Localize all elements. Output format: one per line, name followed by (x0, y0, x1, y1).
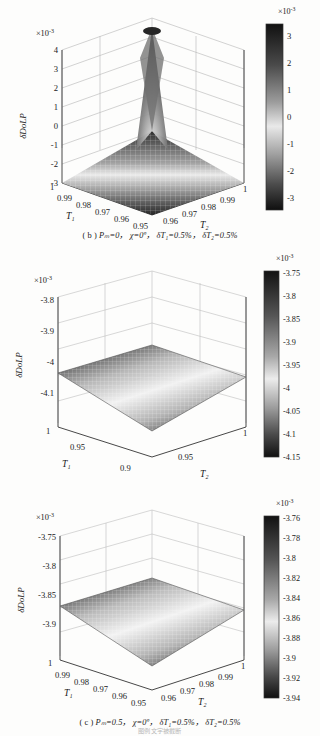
svg-text:-3.86: -3.86 (283, 614, 300, 623)
svg-text:-3.82: -3.82 (283, 574, 300, 583)
svg-text:1: 1 (48, 658, 52, 668)
svg-text:0.95: 0.95 (131, 698, 146, 708)
svg-text:0.98: 0.98 (201, 202, 216, 212)
svg-text:-3.78: -3.78 (283, 534, 300, 543)
panel-d-zlabel: δDoLP (16, 587, 26, 613)
svg-text:-2: -2 (287, 166, 294, 176)
svg-text:-3.8: -3.8 (42, 561, 56, 571)
svg-text:-3: -3 (287, 193, 294, 203)
svg-text:-3.95: -3.95 (283, 361, 300, 370)
panel-b-zlabel: δDoLP (18, 113, 28, 139)
svg-text:-3.9: -3.9 (283, 654, 296, 663)
panel-b: ×10-3 4 3 2 1 0 -1 -2 -3 δDoLP 1 0.9 (0, 0, 320, 245)
svg-text:0.95: 0.95 (70, 442, 85, 452)
panel-b-colorbar-gradient (266, 24, 283, 210)
svg-text:0: 0 (54, 121, 58, 131)
svg-text:0.97: 0.97 (182, 209, 198, 219)
panel-b-colorbar-exponent: ×10-3 (278, 6, 295, 16)
svg-text:-1: -1 (51, 140, 58, 150)
panel-d: ×10-3 -3.75 -3.8 -3.85 -3.9 δDoLP 1 0.99… (0, 490, 320, 715)
svg-text:-4.15: -4.15 (283, 453, 300, 462)
svg-text:1: 1 (287, 85, 291, 95)
panel-c-colorbar-gradient (264, 271, 279, 457)
svg-text:2: 2 (54, 83, 58, 93)
panel-d-colorbar-svg: ×10-3 -3.76 -3.78 -3.8 -3.82 -3.84 -3.86… (262, 490, 318, 715)
panel-d-xlabel: T₁ (64, 687, 73, 698)
svg-text:-3.94: -3.94 (283, 694, 300, 703)
panel-d-colorbar-ticks: -3.76 -3.78 -3.8 -3.82 -3.84 -3.86 -3.88… (283, 514, 300, 703)
panel-d-ylabel: T₂ (198, 696, 207, 707)
panel-c-colorbar: ×10-3 -3.75 -3.8 -3.85 -3.9 -3.95 -4 -4.… (262, 245, 318, 490)
svg-text:-3.88: -3.88 (283, 634, 300, 643)
svg-text:0.97: 0.97 (180, 686, 196, 696)
svg-text:-3.85: -3.85 (38, 590, 56, 600)
panel-c-zlabel: δDoLP (14, 352, 24, 378)
panel-b-caption: ( b ) Pₘ=0， χ=0º， δT₁=0.5%， δT₂=0.5% (0, 228, 320, 240)
panel-c-xlabel: T₁ (62, 458, 71, 469)
panel-d-plot: ×10-3 -3.75 -3.8 -3.85 -3.9 δDoLP 1 0.99… (0, 490, 264, 715)
figure-page: ×10-3 4 3 2 1 0 -1 -2 -3 δDoLP 1 0.9 (0, 0, 320, 736)
svg-text:-4.05: -4.05 (283, 407, 300, 416)
svg-text:0.98: 0.98 (76, 200, 91, 210)
panel-c-z-exponent: ×10-3 (34, 275, 52, 285)
svg-text:-4.1: -4.1 (283, 430, 296, 439)
svg-text:0.99: 0.99 (57, 193, 72, 203)
svg-text:0.97: 0.97 (95, 207, 111, 217)
svg-text:0.96: 0.96 (114, 214, 130, 224)
panel-b-z-exponent: ×10-3 (36, 28, 54, 38)
svg-text:2: 2 (287, 58, 291, 68)
panel-c: ×10-3 -3.8 -3.9 -4 -4.1 δDoLP 1 0.95 0.9… (0, 245, 320, 490)
panel-d-z-exponent: ×10-3 (36, 512, 54, 522)
panel-b-plot: ×10-3 4 3 2 1 0 -1 -2 -3 δDoLP 1 0.9 (0, 0, 264, 245)
svg-text:0.96: 0.96 (112, 691, 128, 701)
panel-c-colorbar-ticks: -3.75 -3.8 -3.85 -3.9 -3.95 -4 -4.05 -4.… (283, 269, 300, 462)
panel-c-ylabel: T₂ (200, 468, 209, 479)
svg-text:4: 4 (54, 45, 59, 55)
panel-b-caption-body: Pₘ=0， χ=0º， δT₁=0.5%， δT₂=0.5% (99, 231, 237, 240)
clipped-footer-text: 图例文字被截断 (0, 726, 320, 736)
svg-text:-3.76: -3.76 (283, 514, 300, 523)
svg-text:0.96: 0.96 (163, 216, 179, 226)
svg-text:0.96: 0.96 (161, 693, 177, 703)
panel-b-colorbar-ticks: 3 2 1 0 -1 -2 -3 (287, 31, 294, 203)
svg-text:-3.92: -3.92 (283, 674, 300, 683)
panel-c-plot: ×10-3 -3.8 -3.9 -4 -4.1 δDoLP 1 0.95 0.9… (0, 245, 264, 490)
svg-text:-3.75: -3.75 (283, 269, 300, 278)
svg-text:0: 0 (287, 112, 291, 122)
panel-b-surface-svg: ×10-3 4 3 2 1 0 -1 -2 -3 δDoLP 1 0.9 (0, 0, 264, 245)
panel-b-colorbar-svg: ×10-3 3 2 1 0 -1 -2 -3 (262, 0, 318, 245)
panel-d-colorbar-exponent: ×10-3 (276, 498, 293, 508)
svg-text:-3.84: -3.84 (283, 594, 300, 603)
svg-text:-3.9: -3.9 (40, 326, 54, 336)
svg-text:-4: -4 (283, 384, 290, 393)
svg-text:0.99: 0.99 (218, 672, 233, 682)
svg-text:-3.8: -3.8 (40, 295, 54, 305)
svg-text:0.9: 0.9 (120, 463, 131, 473)
svg-text:1: 1 (54, 102, 58, 112)
svg-text:1: 1 (50, 182, 54, 192)
svg-text:-1: -1 (287, 139, 294, 149)
panel-d-z-ticks: -3.75 -3.8 -3.85 -3.9 (38, 532, 56, 629)
svg-text:1: 1 (241, 661, 245, 671)
panel-c-surface-sheet (58, 345, 246, 431)
svg-text:-3.8: -3.8 (283, 292, 296, 301)
panel-b-colorbar: ×10-3 3 2 1 0 -1 -2 -3 (262, 0, 318, 245)
panel-c-colorbar-svg: ×10-3 -3.75 -3.8 -3.85 -3.9 -3.95 -4 -4.… (262, 245, 318, 490)
panel-c-colorbar-exponent: ×10-3 (276, 253, 293, 263)
panel-c-surface-svg: ×10-3 -3.8 -3.9 -4 -4.1 δDoLP 1 0.95 0.9… (0, 245, 264, 490)
panel-b-z-ticks: 4 3 2 1 0 -1 -2 -3 (51, 45, 59, 188)
panel-d-surface-svg: ×10-3 -3.75 -3.8 -3.85 -3.9 δDoLP 1 0.99… (0, 490, 264, 715)
svg-text:1: 1 (243, 428, 247, 438)
svg-text:-4: -4 (47, 357, 55, 367)
svg-text:0.95: 0.95 (178, 452, 193, 462)
panel-d-colorbar-gradient (264, 516, 279, 698)
svg-text:1: 1 (243, 184, 247, 194)
svg-text:3: 3 (287, 31, 291, 41)
svg-text:0.98: 0.98 (74, 677, 89, 687)
svg-text:-3.85: -3.85 (283, 315, 300, 324)
panel-d-colorbar: ×10-3 -3.76 -3.78 -3.8 -3.82 -3.84 -3.86… (262, 490, 318, 715)
svg-text:0.99: 0.99 (55, 670, 70, 680)
svg-text:0.97: 0.97 (93, 684, 109, 694)
svg-text:0.99: 0.99 (220, 195, 235, 205)
svg-text:1: 1 (46, 426, 50, 436)
